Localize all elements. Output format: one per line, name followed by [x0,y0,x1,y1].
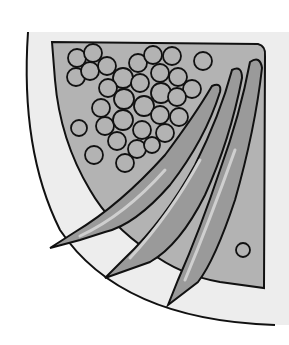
illustration [0,0,289,345]
